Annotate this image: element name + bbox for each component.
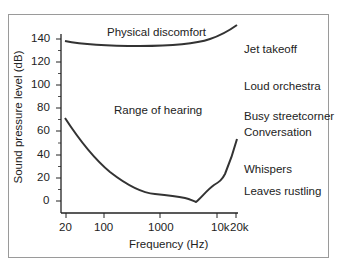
- y-tick-label: 40: [37, 148, 50, 160]
- label-whispers: Whispers: [244, 163, 292, 175]
- y-tick-label: 0: [43, 194, 49, 206]
- label-leaves-rustling: Leaves rustling: [244, 185, 321, 197]
- x-tick-label: 20k: [230, 221, 249, 233]
- y-tick-label: 80: [37, 101, 50, 113]
- y-tick-label: 120: [31, 55, 50, 67]
- label-jet-takeoff: Jet takeoff: [244, 43, 297, 55]
- label-loud-orchestra: Loud orchestra: [244, 80, 321, 92]
- x-tick-label: 10k: [211, 221, 230, 233]
- x-axis-title: Frequency (Hz): [129, 238, 208, 250]
- y-axis-title: Sound pressure level (dB): [12, 47, 24, 187]
- x-tick-label: 100: [94, 221, 113, 233]
- y-tick-label: 20: [37, 171, 50, 183]
- y-tick-label: 140: [31, 32, 50, 44]
- range-of-hearing-label: Range of hearing: [114, 104, 202, 116]
- x-tick-label: 20: [59, 221, 72, 233]
- threshold-of-hearing-curve: [65, 118, 237, 202]
- label-busy-streetcorner: Busy streetcorner: [244, 110, 334, 122]
- y-major-ticks: [56, 39, 61, 201]
- x-tick-label: 1000: [148, 221, 174, 233]
- physical-discomfort-label: Physical discomfort: [107, 26, 206, 38]
- label-conversation: Conversation: [244, 126, 312, 138]
- y-tick-label: 100: [31, 78, 50, 90]
- y-tick-label: 60: [37, 124, 50, 136]
- x-ticks: [66, 213, 236, 218]
